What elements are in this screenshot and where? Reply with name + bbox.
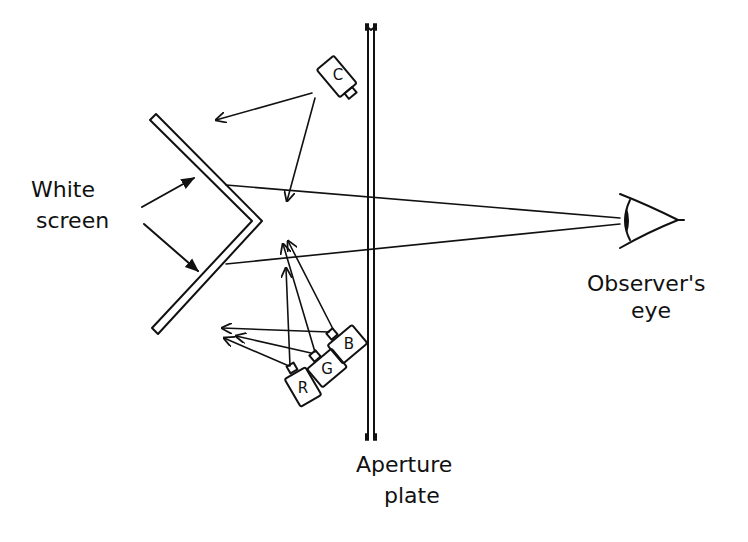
colorimeter-diagram: C B G R: [0, 0, 748, 542]
aperture-plate-label-line1: Aperture: [356, 452, 452, 477]
projector-g-label: G: [321, 360, 333, 378]
white-screen-label-line1: White: [31, 177, 95, 202]
aperture-plate-label-line2: plate: [384, 483, 440, 508]
projector-g: G: [236, 244, 347, 387]
projector-r: R: [224, 268, 321, 407]
observer-label-line2: eye: [631, 298, 671, 323]
projector-c: C: [216, 55, 362, 201]
eye-icon: [620, 194, 684, 248]
white-screen: [150, 114, 262, 334]
projector-r-label: R: [298, 379, 308, 397]
projector-b: B: [222, 241, 367, 364]
observer-label-line1: Observer's: [587, 271, 705, 296]
projector-b-label: B: [344, 335, 354, 353]
aperture-plate: [366, 24, 376, 440]
white-screen-label-line2: screen: [36, 208, 109, 233]
screen-pointer-arrows: [142, 178, 198, 271]
projector-c-label: C: [333, 66, 343, 84]
